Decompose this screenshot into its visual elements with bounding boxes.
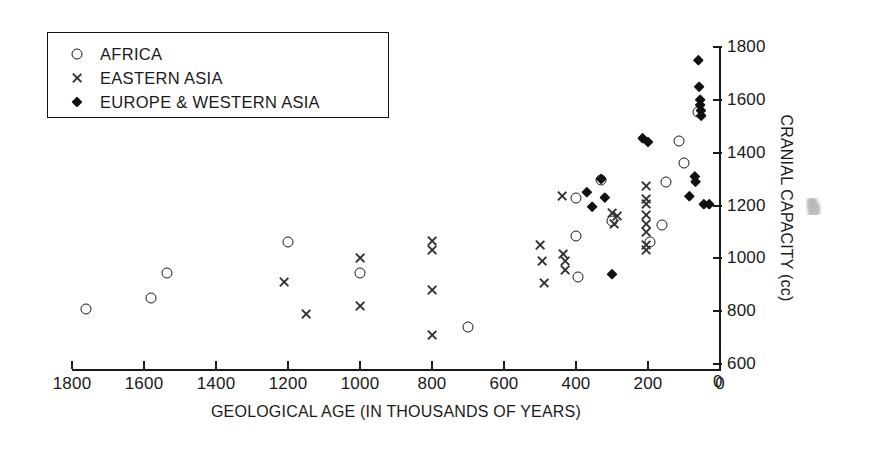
x-tick-200 xyxy=(647,361,649,369)
y-axis-title: CRANIAL CAPACITY (cc) xyxy=(777,114,795,301)
data-point xyxy=(81,303,92,314)
data-point xyxy=(354,300,366,312)
data-point xyxy=(300,308,312,320)
data-point xyxy=(684,191,695,202)
legend-item-label: EUROPE & WESTERN ASIA xyxy=(100,93,320,112)
x-tick-label-400: 400 xyxy=(562,374,591,394)
data-point xyxy=(640,244,652,256)
y-tick-label-600: 600 xyxy=(727,354,756,374)
legend-item-africa: AFRICA xyxy=(48,42,388,66)
y-tick-1400 xyxy=(713,152,722,154)
data-point xyxy=(556,190,568,202)
y-tick-label-1800: 1800 xyxy=(727,37,766,57)
data-point xyxy=(657,220,668,231)
data-point xyxy=(536,255,548,267)
y-tick-1000 xyxy=(713,257,722,259)
x-tick-1800 xyxy=(71,361,73,369)
y-axis-line xyxy=(719,46,721,371)
data-point xyxy=(426,284,438,296)
data-point xyxy=(581,187,592,198)
x-tick-label-800: 800 xyxy=(418,374,447,394)
x-tick-800 xyxy=(431,361,433,369)
y-tick-label-1000: 1000 xyxy=(727,248,766,268)
y-tick-label-1400: 1400 xyxy=(727,143,766,163)
scan-artifact-smudge xyxy=(806,198,821,215)
x-tick-600 xyxy=(503,361,505,369)
x-axis-line xyxy=(72,369,721,371)
x-axis-title: GEOLOGICAL AGE (IN THOUSANDS OF YEARS) xyxy=(211,403,581,421)
data-point xyxy=(571,230,582,241)
y-tick-1600 xyxy=(713,99,722,101)
data-point xyxy=(572,271,583,282)
data-point xyxy=(611,210,623,222)
data-point xyxy=(661,176,672,187)
data-point xyxy=(571,192,582,203)
y-tick-1200 xyxy=(713,205,722,207)
data-point xyxy=(607,269,618,280)
data-point xyxy=(673,135,684,146)
y-axis-origin-label: 0 xyxy=(713,372,722,392)
data-point xyxy=(463,322,474,333)
data-point xyxy=(162,267,173,278)
x-tick-label-200: 200 xyxy=(634,374,663,394)
x-tick-label-1400: 1400 xyxy=(197,374,236,394)
x-tick-label-1000: 1000 xyxy=(341,374,380,394)
y-tick-1800 xyxy=(713,46,722,48)
cranial-capacity-scatter-figure: 180016001400120010008006004002000 600800… xyxy=(0,0,894,454)
data-point xyxy=(426,244,438,256)
data-point xyxy=(694,81,705,92)
x-tick-1200 xyxy=(287,361,289,369)
y-tick-label-1200: 1200 xyxy=(727,196,766,216)
x-tick-label-1600: 1600 xyxy=(125,374,164,394)
x-tick-label-1200: 1200 xyxy=(269,374,308,394)
data-point xyxy=(693,55,704,66)
data-point xyxy=(679,158,690,169)
x-tick-label-600: 600 xyxy=(490,374,519,394)
diamond-marker-icon xyxy=(68,93,86,111)
x-tick-label-1800: 1800 xyxy=(53,374,92,394)
data-point xyxy=(426,329,438,341)
legend-item-eastern-asia: EASTERN ASIA xyxy=(48,66,388,90)
data-point xyxy=(538,277,550,289)
cross-marker-icon xyxy=(68,69,86,87)
data-point xyxy=(355,267,366,278)
data-point xyxy=(587,201,598,212)
legend-item-label: AFRICA xyxy=(100,45,162,64)
data-point xyxy=(640,226,652,238)
data-point xyxy=(599,192,610,203)
legend-item-europe-western-asia: EUROPE & WESTERN ASIA xyxy=(48,90,388,114)
data-point xyxy=(559,264,571,276)
circle-marker-icon xyxy=(68,45,86,63)
y-tick-label-800: 800 xyxy=(727,301,756,321)
x-tick-1600 xyxy=(143,361,145,369)
y-tick-800 xyxy=(713,310,722,312)
legend-item-label: EASTERN ASIA xyxy=(100,69,223,88)
data-point xyxy=(146,292,157,303)
data-point xyxy=(354,252,366,264)
data-point xyxy=(534,239,546,251)
y-tick-label-1600: 1600 xyxy=(727,90,766,110)
y-tick-600 xyxy=(713,363,722,365)
data-point xyxy=(283,237,294,248)
x-tick-400 xyxy=(575,361,577,369)
x-tick-1400 xyxy=(215,361,217,369)
legend: AFRICAEASTERN ASIAEUROPE & WESTERN ASIA xyxy=(47,32,389,118)
data-point xyxy=(278,276,290,288)
x-tick-1000 xyxy=(359,361,361,369)
data-point xyxy=(640,180,652,192)
